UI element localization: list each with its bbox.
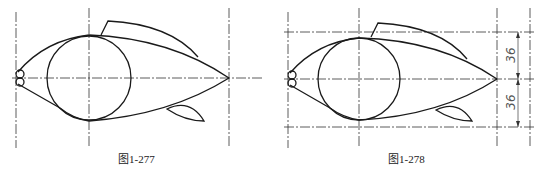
mouth-circle-top: [288, 71, 296, 79]
figure-caption-2: 图1-278: [388, 150, 425, 166]
ventral-fin: [167, 105, 204, 121]
dorsal-fin: [371, 23, 467, 59]
body-lower-outline: [18, 78, 229, 121]
body-lower-join: [330, 108, 359, 120]
dimension-label-lower: 36: [504, 94, 518, 109]
fish-figure-2: [284, 8, 536, 148]
drawing-canvas: .c{stroke:#333;stroke-width:0.8;fill:non…: [0, 0, 541, 169]
dorsal-fin: [101, 21, 198, 57]
ventral-fin: [436, 106, 472, 121]
fish-figure-1: [12, 8, 262, 148]
mouth-circle-top: [16, 70, 24, 78]
dimension-line: [516, 32, 520, 127]
figure-caption-1: 图1-277: [118, 150, 155, 166]
dimension-label-upper: 36: [504, 47, 518, 62]
body-lower-join: [60, 108, 89, 121]
